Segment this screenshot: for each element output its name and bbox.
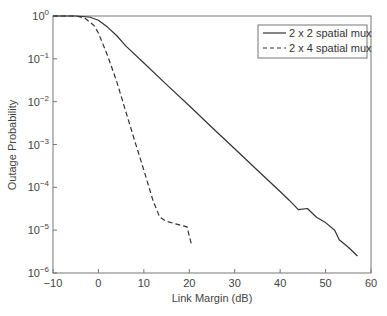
y-tick-label: 10−4 xyxy=(28,179,50,193)
y-tick-label: 10−1 xyxy=(28,51,50,65)
x-tick-label: 60 xyxy=(365,277,377,289)
x-tick-label: 10 xyxy=(138,277,150,289)
legend-label-2x2: 2 x 2 spatial mux xyxy=(289,27,372,39)
x-tick-label: 0 xyxy=(95,277,101,289)
y-tick-label: 10−3 xyxy=(28,137,50,151)
outage-probability-chart: −100102030405060 10010−110−210−310−410−5… xyxy=(0,0,387,316)
y-tick-label: 10−5 xyxy=(28,222,50,236)
x-tick-label: 20 xyxy=(183,277,195,289)
x-axis-ticks: −100102030405060 xyxy=(44,269,377,289)
y-tick-label: 100 xyxy=(32,8,49,22)
x-tick-label: 30 xyxy=(229,277,241,289)
y-axis-title: Outage Probability xyxy=(6,99,18,190)
x-tick-label: 50 xyxy=(319,277,331,289)
y-tick-label: 10−2 xyxy=(28,94,50,108)
x-tick-label: −10 xyxy=(44,277,63,289)
legend: 2 x 2 spatial mux 2 x 4 spatial mux xyxy=(258,25,372,58)
x-tick-label: 40 xyxy=(274,277,286,289)
x-axis-title: Link Margin (dB) xyxy=(172,292,253,304)
series-2x4-dashed-line xyxy=(53,16,192,245)
legend-label-2x4: 2 x 4 spatial mux xyxy=(289,42,372,54)
